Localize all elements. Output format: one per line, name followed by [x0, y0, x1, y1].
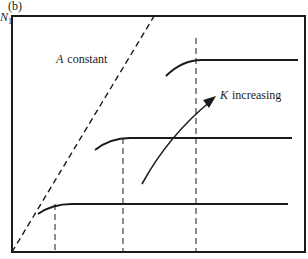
curve-low-k — [38, 204, 288, 214]
annotation-a-variable: A — [56, 52, 63, 66]
annotation-a-text: constant — [67, 52, 107, 66]
y-axis-label: N1 — [0, 10, 12, 26]
curve-mid-k — [95, 138, 292, 150]
diagram-canvas — [0, 0, 308, 259]
annotation-k-text: increasing — [232, 88, 281, 102]
annotation-a-constant: Aconstant — [56, 52, 107, 67]
curve-high-k — [166, 60, 298, 76]
y-axis-symbol: N — [0, 10, 8, 24]
annotation-k-variable: K — [220, 88, 228, 102]
y-axis-subscript: 1 — [8, 17, 12, 26]
annotation-k-increasing: Kincreasing — [220, 88, 281, 103]
diagonal-dashed-line — [12, 13, 156, 252]
k-increasing-arrow — [142, 100, 212, 184]
